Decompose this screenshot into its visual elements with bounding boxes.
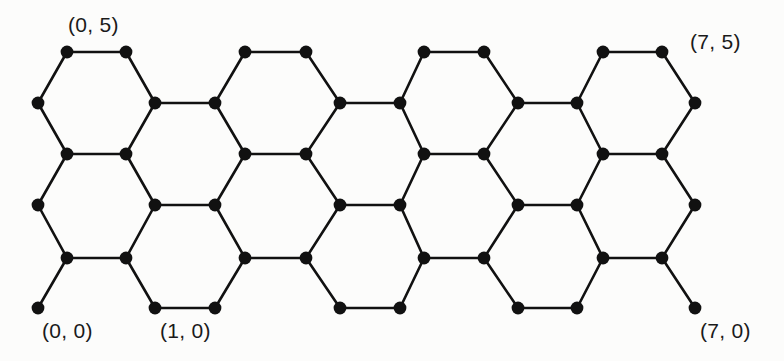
label-1-0: (1, 0) <box>160 320 211 341</box>
lattice-edge <box>577 154 603 205</box>
lattice-edge <box>38 258 67 308</box>
lattice-edge <box>126 52 155 103</box>
lattice-node <box>597 46 610 59</box>
lattice-node <box>149 302 162 315</box>
lattice-edge <box>38 154 67 205</box>
lattice-edge <box>126 103 155 154</box>
lattice-edge <box>484 258 518 308</box>
lattice-edge <box>662 52 695 103</box>
lattice-edge <box>215 154 245 205</box>
lattice-edge <box>215 52 245 103</box>
lattice-edge <box>215 103 245 154</box>
lattice-edge <box>400 258 424 308</box>
lattice-edge <box>306 103 340 154</box>
lattice-node <box>418 46 431 59</box>
lattice-edge <box>662 205 695 258</box>
lattice-edge <box>577 103 603 154</box>
lattice-edge <box>662 103 695 154</box>
lattice-edge <box>126 205 155 258</box>
lattice-node <box>300 46 313 59</box>
lattice-node <box>239 252 252 265</box>
label-7-0: (7, 0) <box>700 320 751 341</box>
lattice-edge <box>38 52 67 103</box>
lattice-edge <box>662 258 695 308</box>
lattice-edge <box>38 205 67 258</box>
lattice-node <box>418 252 431 265</box>
lattice-node <box>209 199 222 212</box>
lattice-node <box>61 46 74 59</box>
lattice-edge <box>126 154 155 205</box>
label-7-5: (7, 5) <box>690 31 741 52</box>
lattice-edge <box>484 103 518 154</box>
lattice-node <box>394 97 407 110</box>
lattice-edge <box>306 154 340 205</box>
lattice-node <box>32 302 45 315</box>
lattice-node <box>478 252 491 265</box>
lattice-edge <box>306 205 340 258</box>
lattice-node <box>61 148 74 161</box>
lattice-node <box>300 252 313 265</box>
lattice-node <box>209 302 222 315</box>
lattice-node <box>656 148 669 161</box>
lattice-node <box>32 199 45 212</box>
lattice-edge <box>484 154 518 205</box>
lattice-node <box>239 46 252 59</box>
lattice-edge <box>306 258 340 308</box>
lattice-node <box>478 46 491 59</box>
lattice-edge <box>215 205 245 258</box>
lattice-node <box>120 46 133 59</box>
lattice-node <box>61 252 74 265</box>
hexagonal-lattice-figure: (0, 5)(7, 5)(0, 0)(1, 0)(7, 0) <box>0 0 784 361</box>
lattice-node <box>571 199 584 212</box>
lattice-edge <box>484 52 518 103</box>
lattice-node-layer <box>32 46 702 315</box>
lattice-edge <box>400 52 424 103</box>
lattice-edge <box>306 52 340 103</box>
lattice-node <box>689 302 702 315</box>
lattice-node <box>512 302 525 315</box>
lattice-node <box>334 97 347 110</box>
lattice-node <box>656 252 669 265</box>
lattice-edge <box>662 154 695 205</box>
lattice-node <box>394 302 407 315</box>
lattice-node <box>149 97 162 110</box>
lattice-edge <box>400 103 424 154</box>
lattice-node <box>512 199 525 212</box>
lattice-edge <box>38 103 67 154</box>
lattice-edge <box>126 258 155 308</box>
lattice-node <box>478 148 491 161</box>
lattice-node <box>209 97 222 110</box>
label-0-0: (0, 0) <box>42 320 93 341</box>
lattice-node <box>597 252 610 265</box>
lattice-node <box>394 199 407 212</box>
lattice-edge <box>400 205 424 258</box>
lattice-edge-layer <box>38 52 695 308</box>
lattice-node <box>120 148 133 161</box>
lattice-edge <box>215 258 245 308</box>
lattice-node <box>418 148 431 161</box>
lattice-node <box>300 148 313 161</box>
lattice-node <box>656 46 669 59</box>
lattice-edge <box>484 205 518 258</box>
lattice-node <box>120 252 133 265</box>
lattice-node <box>689 199 702 212</box>
lattice-node <box>689 97 702 110</box>
lattice-node <box>334 302 347 315</box>
lattice-node <box>239 148 252 161</box>
lattice-node <box>571 302 584 315</box>
lattice-node <box>32 97 45 110</box>
lattice-node <box>597 148 610 161</box>
lattice-node <box>512 97 525 110</box>
lattice-node <box>571 97 584 110</box>
lattice-edge <box>577 205 603 258</box>
lattice-edge <box>400 154 424 205</box>
lattice-graphic <box>0 0 784 361</box>
label-0-5: (0, 5) <box>68 14 119 35</box>
lattice-node <box>334 199 347 212</box>
lattice-edge <box>577 52 603 103</box>
lattice-edge <box>577 258 603 308</box>
lattice-node <box>149 199 162 212</box>
